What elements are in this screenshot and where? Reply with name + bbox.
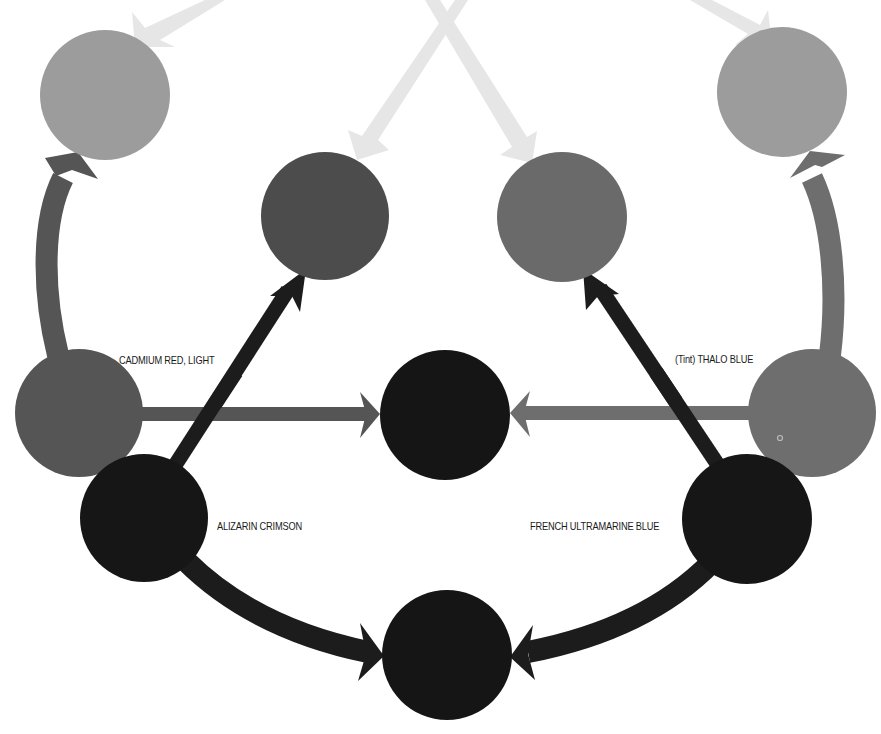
arrow-ultramarine-to-bottom xyxy=(510,562,712,680)
color-mixing-diagram xyxy=(0,0,881,734)
french-ultramarine-circle xyxy=(682,454,812,584)
label-thalo-blue: (Tint) THALO BLUE xyxy=(675,353,753,365)
mid-right-mix-circle xyxy=(497,152,627,282)
label-french-ultramarine: FRENCH ULTRAMARINE BLUE xyxy=(530,520,659,532)
top-left-mix-circle xyxy=(40,30,170,160)
arrow-cadmium-to-center xyxy=(140,392,380,438)
arrow-head-up-icon xyxy=(790,151,845,178)
label-cadmium-red: CADMIUM RED, LIGHT xyxy=(119,354,214,366)
arrow-cadmium-to-top-left xyxy=(45,152,98,355)
arrow-ultramarine-to-mid-right xyxy=(583,269,720,468)
arrow-thalo-to-center xyxy=(510,391,754,437)
faint-arrows xyxy=(132,0,772,163)
label-alizarin-crimson: ALIZARIN CRIMSON xyxy=(217,520,302,532)
arrow-alizarin-to-bottom xyxy=(185,560,384,681)
alizarin-crimson-circle xyxy=(80,454,208,582)
top-right-mix-circle xyxy=(717,27,847,157)
arrow-thalo-to-top-right xyxy=(790,151,845,355)
mid-left-mix-circle xyxy=(261,152,389,280)
arrow-alizarin-to-mid-left xyxy=(172,269,306,470)
faint-arrow-into-top-left xyxy=(132,0,225,47)
bottom-mix-circle xyxy=(382,590,512,720)
arrow-ultramarine-overlap xyxy=(656,372,676,402)
center-mix-circle xyxy=(380,350,510,480)
faint-arrow-into-mid-right xyxy=(425,0,537,163)
arrow-alizarin-overlap xyxy=(215,372,236,404)
